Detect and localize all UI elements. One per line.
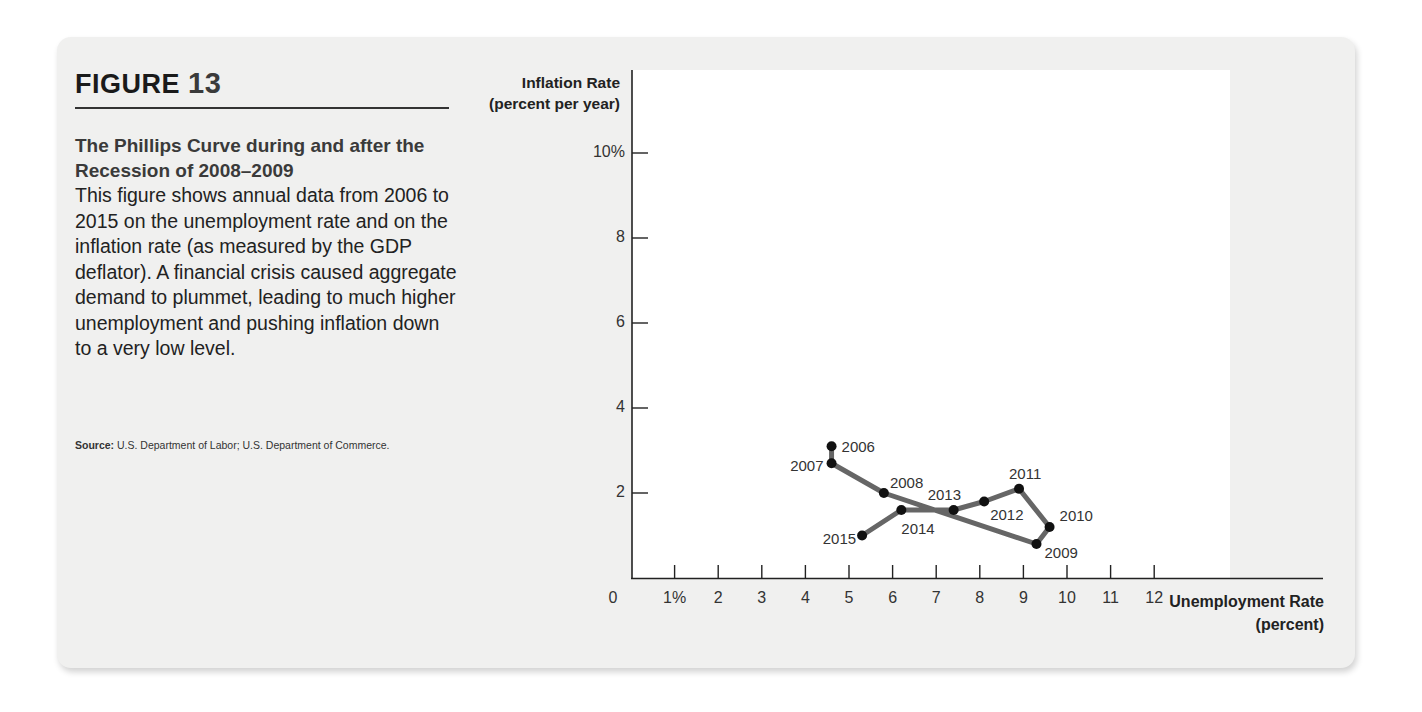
- point-label: 2013: [928, 486, 961, 503]
- data-point: [827, 458, 837, 468]
- point-label: 2010: [1060, 507, 1093, 524]
- point-label: 2009: [1044, 544, 1077, 561]
- data-point: [879, 488, 889, 498]
- point-label: 2007: [790, 457, 823, 474]
- data-point: [1014, 484, 1024, 494]
- point-label: 2014: [901, 520, 934, 537]
- phillips-curve-chart: 2006200720082009201020112012201320142015: [0, 0, 1422, 712]
- point-label: 2012: [990, 506, 1023, 523]
- data-point: [1045, 522, 1055, 532]
- point-label: 2006: [842, 438, 875, 455]
- data-point: [857, 531, 867, 541]
- data-point: [1031, 539, 1041, 549]
- data-point: [949, 505, 959, 515]
- data-point: [896, 505, 906, 515]
- data-point: [979, 497, 989, 507]
- point-label: 2008: [890, 474, 923, 491]
- data-point: [827, 441, 837, 451]
- point-label: 2015: [823, 530, 856, 547]
- point-label: 2011: [1009, 465, 1041, 482]
